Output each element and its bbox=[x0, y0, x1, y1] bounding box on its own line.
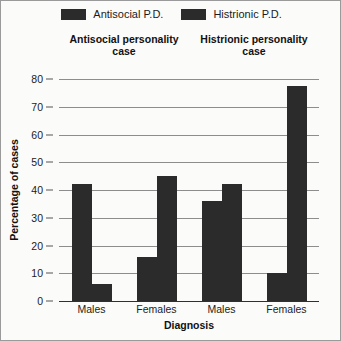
group-header-histrionic: Histrionic personality case bbox=[189, 33, 319, 57]
y-tick-mark-10 bbox=[46, 273, 53, 274]
y-tick-mark-70 bbox=[46, 106, 53, 107]
chart-legend: Antisocial P.D. Histrionic P.D. bbox=[1, 9, 341, 20]
y-tick-label-60: 60 bbox=[31, 129, 43, 140]
x-tick-label-2: Males bbox=[189, 303, 254, 315]
y-tick-label-10: 10 bbox=[31, 268, 43, 279]
x-axis-title: Diagnosis bbox=[59, 319, 319, 331]
bar-females-antisocial bbox=[137, 257, 157, 301]
bar-series bbox=[59, 79, 319, 301]
x-axis-tick-labels: MalesFemalesMalesFemales bbox=[59, 303, 319, 315]
y-tick-mark-20 bbox=[46, 245, 53, 246]
y-tick-mark-30 bbox=[46, 217, 53, 218]
y-tick-mark-50 bbox=[46, 162, 53, 163]
y-tick-label-70: 70 bbox=[31, 102, 43, 113]
y-tick-label-0: 0 bbox=[37, 296, 43, 307]
y-tick-label-50: 50 bbox=[31, 157, 43, 168]
x-tick-label-3: Females bbox=[254, 303, 319, 315]
group-header-antisocial: Antisocial personality case bbox=[59, 33, 189, 57]
legend-label-antisocial: Antisocial P.D. bbox=[93, 9, 163, 20]
bar-males-antisocial bbox=[202, 201, 222, 301]
group-headers: Antisocial personality case Histrionic p… bbox=[59, 33, 319, 57]
y-tick-label-40: 40 bbox=[31, 185, 43, 196]
bar-males-histrionic bbox=[222, 184, 242, 301]
bar-males-antisocial bbox=[72, 184, 92, 301]
bar-females-histrionic bbox=[157, 176, 177, 301]
plot-area bbox=[59, 79, 319, 301]
x-tick-label-1: Females bbox=[124, 303, 189, 315]
y-tick-label-20: 20 bbox=[31, 240, 43, 251]
y-tick-mark-40 bbox=[46, 190, 53, 191]
legend-swatch-antisocial bbox=[61, 9, 86, 20]
y-tick-mark-60 bbox=[46, 134, 53, 135]
bar-males-histrionic bbox=[92, 284, 112, 301]
group-header-antisocial-line2: case bbox=[59, 45, 189, 57]
group-header-histrionic-line1: Histrionic personality bbox=[189, 33, 319, 45]
bar-females-histrionic bbox=[287, 86, 307, 301]
legend-item-histrionic: Histrionic P.D. bbox=[181, 9, 281, 20]
chart-figure: Antisocial P.D. Histrionic P.D. Antisoci… bbox=[0, 0, 341, 341]
legend-swatch-histrionic bbox=[181, 9, 206, 20]
bar-females-antisocial bbox=[267, 273, 287, 301]
y-tick-mark-0 bbox=[46, 301, 53, 302]
y-axis-tick-labels: 80706050403020100 bbox=[1, 79, 53, 301]
y-tick-label-80: 80 bbox=[31, 74, 43, 85]
legend-label-histrionic: Histrionic P.D. bbox=[213, 9, 281, 20]
x-axis-line bbox=[59, 301, 319, 302]
x-tick-label-0: Males bbox=[59, 303, 124, 315]
group-header-histrionic-line2: case bbox=[189, 45, 319, 57]
legend-item-antisocial: Antisocial P.D. bbox=[61, 9, 163, 20]
y-tick-label-30: 30 bbox=[31, 213, 43, 224]
y-tick-mark-80 bbox=[46, 79, 53, 80]
group-header-antisocial-line1: Antisocial personality bbox=[59, 33, 189, 45]
